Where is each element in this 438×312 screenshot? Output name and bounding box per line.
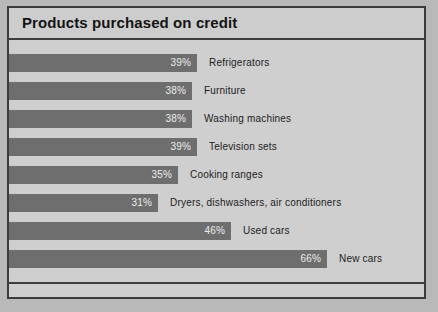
bar-row: 39%Television sets xyxy=(9,138,424,156)
bar-value-label: 35% xyxy=(148,169,172,180)
bar-category-label: Dryers, dishwashers, air conditioners xyxy=(170,197,341,208)
bar-category-label: Furniture xyxy=(204,85,246,96)
bar-value-label: 46% xyxy=(201,225,225,236)
bar-row: 39%Refrigerators xyxy=(9,54,424,72)
bar-row: 66%New cars xyxy=(9,250,424,268)
bar-row: 31%Dryers, dishwashers, air conditioners xyxy=(9,194,424,212)
bar-category-label: Washing machines xyxy=(204,113,291,124)
bar xyxy=(9,250,327,268)
bar-value-label: 39% xyxy=(167,57,191,68)
bar-category-label: Refrigerators xyxy=(209,57,269,68)
bar-value-label: 31% xyxy=(128,197,152,208)
bar-category-label: Used cars xyxy=(243,225,290,236)
bar-row: 38%Furniture xyxy=(9,82,424,100)
bar-value-label: 38% xyxy=(162,113,186,124)
bar-row: 46%Used cars xyxy=(9,222,424,240)
bar-value-label: 39% xyxy=(167,141,191,152)
bar-row: 35%Cooking ranges xyxy=(9,166,424,184)
bar-category-label: New cars xyxy=(339,253,382,264)
chart-title-band: Products purchased on credit xyxy=(9,8,424,40)
chart-frame: Products purchased on credit 39%Refriger… xyxy=(7,6,426,299)
bar xyxy=(9,222,231,240)
plot-bottom-rule xyxy=(9,282,424,284)
bar-category-label: Cooking ranges xyxy=(190,169,263,180)
page-title: Products purchased on credit xyxy=(22,14,237,31)
chart-plot-area: 39%Refrigerators38%Furniture38%Washing m… xyxy=(9,40,424,297)
bar-value-label: 38% xyxy=(162,85,186,96)
bar-category-label: Television sets xyxy=(209,141,277,152)
bar-value-label: 66% xyxy=(297,253,321,264)
bar-row: 38%Washing machines xyxy=(9,110,424,128)
